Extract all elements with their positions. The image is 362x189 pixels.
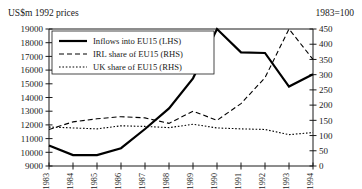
x-axis-tick-labels: 1983198419851986198719881989199019911992…	[42, 173, 315, 189]
x-tick-label: 1992	[258, 173, 267, 189]
right-tick-label: 400	[319, 39, 333, 49]
left-tick-label: 17000	[21, 52, 44, 62]
right-axis-units-label: 1983=100	[315, 8, 354, 18]
right-tick-label: 100	[319, 131, 333, 141]
left-tick-label: 15000	[21, 79, 44, 89]
x-tick-label: 1988	[162, 173, 171, 189]
left-tick-label: 11000	[21, 134, 44, 144]
series-dotted	[49, 124, 313, 134]
right-axis-tick-labels: 050100150200250300350400450	[319, 24, 333, 171]
line-chart: US$m 1992 prices 1983=100 90001000011000…	[0, 0, 362, 189]
right-tick-label: 200	[319, 100, 333, 110]
right-tick-label: 50	[319, 146, 329, 156]
left-tick-label: 13000	[21, 106, 44, 116]
right-tick-label: 150	[319, 116, 333, 126]
x-tick-label: 1983	[42, 173, 51, 189]
chart-legend: Inflows into EU15 (LHS)IRL share of EU15…	[52, 31, 214, 74]
left-tick-label: 19000	[21, 24, 44, 34]
x-tick-label: 1985	[90, 173, 99, 189]
x-tick-label: 1984	[66, 173, 75, 189]
left-tick-label: 9000	[25, 161, 44, 171]
right-tick-label: 0	[319, 161, 324, 171]
legend-label: UK share of EU15 (RHS)	[93, 62, 182, 72]
x-tick-label: 1987	[138, 173, 147, 189]
right-tick-label: 300	[319, 70, 333, 80]
x-tick-label: 1986	[114, 173, 123, 189]
right-tick-label: 250	[319, 85, 333, 95]
left-tick-label: 16000	[21, 65, 44, 75]
x-tick-label: 1990	[210, 173, 219, 189]
right-tick-label: 350	[319, 55, 333, 65]
left-axis-tick-labels: 9000100001100012000130001400015000160001…	[21, 24, 44, 171]
left-tick-label: 14000	[21, 93, 44, 103]
right-tick-label: 450	[319, 24, 333, 34]
left-axis-units-label: US$m 1992 prices	[8, 8, 79, 18]
left-tick-label: 10000	[21, 148, 44, 158]
legend-label: Inflows into EU15 (LHS)	[93, 36, 181, 46]
chart-container: US$m 1992 prices 1983=100 90001000011000…	[0, 0, 362, 189]
left-tick-label: 18000	[21, 38, 44, 48]
x-tick-label: 1989	[186, 173, 195, 189]
x-tick-label: 1993	[282, 173, 291, 189]
x-tick-label: 1994	[306, 173, 315, 189]
chart-header: US$m 1992 prices 1983=100	[8, 8, 354, 18]
legend-label: IRL share of EU15 (RHS)	[93, 49, 183, 59]
x-tick-label: 1991	[234, 173, 243, 189]
left-tick-label: 12000	[21, 120, 44, 130]
